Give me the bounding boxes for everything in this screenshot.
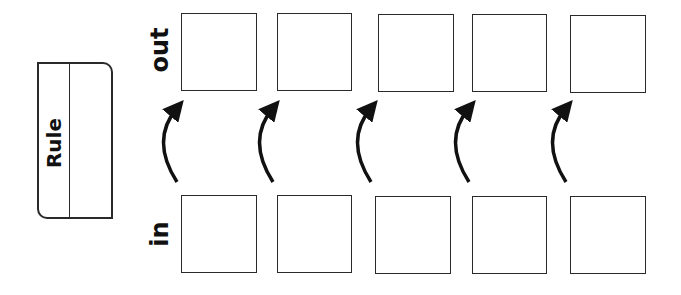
curved-arrow-up-icon: [553, 108, 567, 182]
curved-arrow-up-icon: [260, 108, 274, 182]
curved-arrow-up-icon: [358, 108, 372, 182]
curved-arrow-up-icon: [164, 108, 178, 182]
arrows-layer: [0, 0, 681, 295]
curved-arrow-up-icon: [456, 108, 470, 182]
